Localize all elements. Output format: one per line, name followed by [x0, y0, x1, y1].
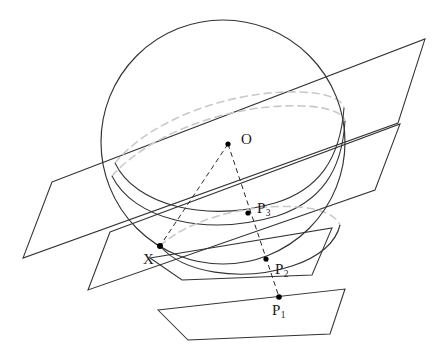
label-X-text: X	[143, 251, 154, 267]
label-P2-base: P	[275, 261, 283, 277]
plane-3-outline	[150, 228, 332, 280]
label-P2-sub: 2	[284, 269, 289, 279]
visible-arc-1a	[115, 108, 344, 211]
plane-4-outline	[158, 289, 345, 340]
label-O-text: O	[241, 131, 252, 147]
label-P1-base: P	[272, 302, 280, 318]
visible-arc-2a	[160, 225, 340, 274]
plane-2-outline	[88, 124, 400, 290]
point-P2-marker	[263, 256, 268, 261]
label-point-P2: P2	[275, 262, 288, 277]
label-point-X: X	[143, 252, 154, 267]
visible-ellipse-plane-2	[160, 225, 340, 274]
hidden-ellipse-plane-1	[112, 92, 345, 176]
visible-ellipse-plane-1	[112, 108, 345, 225]
label-point-O: O	[241, 132, 252, 147]
ray-O-to-X	[160, 144, 228, 246]
point-X-marker	[157, 243, 163, 249]
geometry-diagram	[0, 0, 445, 359]
figure-canvas: O P3 X P2 P1	[0, 0, 445, 359]
label-point-P1: P1	[272, 303, 285, 318]
point-O-marker	[225, 141, 230, 146]
point-P3-marker	[245, 210, 250, 215]
label-point-P3: P3	[257, 201, 270, 216]
label-P3-base: P	[257, 200, 265, 216]
label-P1-sub: 1	[281, 310, 286, 320]
label-P3-sub: 3	[266, 208, 271, 218]
plane-4-bottom	[158, 289, 345, 340]
point-P1-marker	[276, 294, 282, 300]
plane-3	[150, 228, 332, 280]
hidden-arc-1a	[115, 92, 344, 163]
plane-2	[88, 124, 400, 290]
hidden-arc-1b	[112, 106, 345, 176]
